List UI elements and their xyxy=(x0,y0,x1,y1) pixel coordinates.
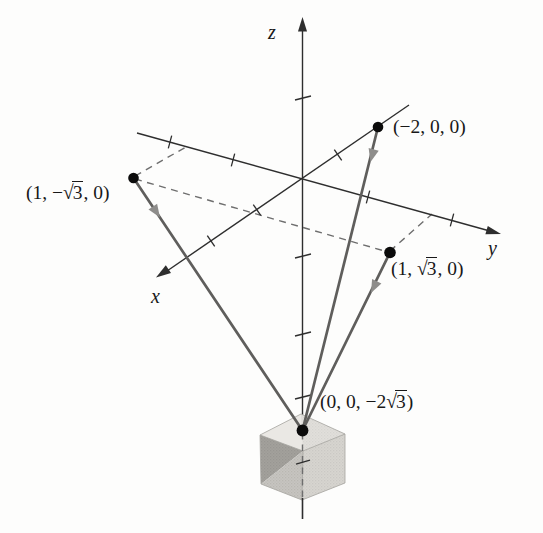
z-axis-arrowhead-icon xyxy=(298,17,307,32)
x-tick xyxy=(207,236,214,247)
y-axis-line xyxy=(137,133,488,231)
point-label-minus2-0-0: (−2, 0, 0) xyxy=(393,116,466,138)
label-text: , 0) xyxy=(437,258,463,279)
radicand: 3 xyxy=(426,257,438,279)
label-text: (1, − xyxy=(26,182,63,203)
z-axis-label: z xyxy=(268,21,276,44)
dot-minus2-0-0 xyxy=(373,122,384,133)
x-axis-line xyxy=(167,105,409,271)
radicand: 3 xyxy=(72,181,84,203)
dashed-guide-left-to-y-axis xyxy=(135,147,186,176)
support-wires xyxy=(134,127,391,431)
axis-ticks xyxy=(168,96,453,399)
sqrt-radical: √3 xyxy=(386,391,406,412)
wire-arrowheads xyxy=(149,148,382,293)
dashed-guide-right-to-y-axis xyxy=(390,214,432,251)
radicand: 3 xyxy=(395,390,407,412)
dot-0-0-minus2sqrt3 xyxy=(297,425,309,437)
point-label-1-sqrt3-0: (1, √3, 0) xyxy=(391,257,463,280)
point-label-0-0-minus2sqrt3: (0, 0, −2√3) xyxy=(320,390,413,413)
wire-arrowhead-icon xyxy=(149,204,161,218)
wire-arrowhead-icon xyxy=(371,279,381,293)
label-text: ) xyxy=(407,391,414,412)
wire-from-minus2-0-0 xyxy=(303,127,379,431)
x-axis-label: x xyxy=(151,285,160,308)
x-axis-arrowhead-icon xyxy=(156,265,171,277)
label-text: (−2, 0, 0) xyxy=(393,116,466,137)
vector-diagram-figure: z y x (−2, 0, 0) (1, −√3, 0) (1, √3, 0) … xyxy=(0,0,543,533)
label-text: (1, xyxy=(391,258,417,279)
label-text: (0, 0, −2 xyxy=(320,391,386,412)
y-axis-label: y xyxy=(488,237,497,260)
sqrt-radical: √3 xyxy=(63,182,83,203)
dot-1-minus-sqrt3-0 xyxy=(128,173,139,184)
point-label-1-minus-sqrt3-0: (1, −√3, 0) xyxy=(26,181,109,204)
dashed-guides xyxy=(135,147,432,252)
y-axis-arrowhead-icon xyxy=(485,226,501,234)
sqrt-radical: √3 xyxy=(417,258,437,279)
label-text: , 0) xyxy=(83,182,109,203)
